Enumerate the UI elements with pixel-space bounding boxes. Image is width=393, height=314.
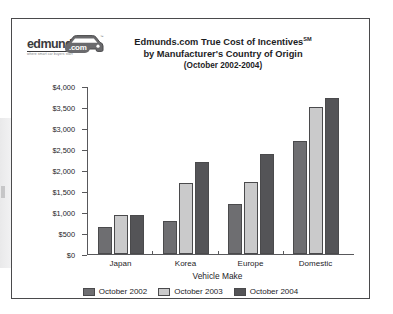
- legend-item[interactable]: October 2003: [158, 287, 222, 296]
- x-axis-category-label: Japan: [88, 259, 153, 268]
- logo-tagline: where smart car buyers start: [27, 52, 73, 56]
- y-axis-tick: $2,500: [82, 150, 87, 151]
- legend-label: October 2002: [99, 287, 147, 296]
- legend-item[interactable]: October 2002: [83, 287, 147, 296]
- edmunds-logo: edmunds ™ .com where smart car buyers st…: [27, 34, 105, 60]
- bar-group-korea: Korea: [153, 87, 218, 254]
- y-axis-label: $1,000: [52, 209, 75, 218]
- bar[interactable]: [195, 162, 209, 254]
- bar-series-container: JapanKoreaEuropeDomestic: [88, 87, 348, 254]
- y-axis-tick: $3,500: [82, 108, 87, 109]
- bar[interactable]: [163, 221, 177, 254]
- x-axis-category-label: Korea: [153, 259, 218, 268]
- y-axis-tick: $4,000: [82, 87, 87, 88]
- y-axis-tick: $1,000: [82, 213, 87, 214]
- bar[interactable]: [98, 227, 112, 254]
- y-axis-label: $2,500: [52, 146, 75, 155]
- bar[interactable]: [260, 154, 274, 254]
- y-axis-tick: $3,000: [82, 129, 87, 130]
- x-axis-title: Vehicle Make: [87, 271, 348, 281]
- y-axis-label: $1,500: [52, 188, 75, 197]
- bar-group-europe: Europe: [218, 87, 283, 254]
- service-mark: SM: [303, 36, 311, 42]
- y-axis-tick: $0: [82, 255, 87, 256]
- page-edge-mark: [1, 186, 5, 198]
- bar[interactable]: [228, 204, 242, 254]
- y-axis-label: $0: [67, 251, 75, 260]
- y-axis-label: $500: [59, 230, 75, 239]
- y-axis-label: $4,000: [52, 83, 75, 92]
- bar[interactable]: [130, 215, 144, 254]
- x-axis-group-separator: [152, 251, 153, 255]
- bar[interactable]: [244, 182, 258, 254]
- y-axis-tick: $500: [82, 234, 87, 235]
- y-axis-tick: $2,000: [82, 171, 87, 172]
- bar[interactable]: [114, 215, 128, 254]
- legend-swatch: [158, 288, 170, 296]
- bar[interactable]: [325, 98, 339, 254]
- y-axis-label: $3,000: [52, 125, 75, 134]
- y-axis-tick: $1,500: [82, 192, 87, 193]
- chart-legend: October 2002October 2003October 2004: [12, 287, 369, 296]
- chart-title: Edmunds.com True Cost of IncentivesSM by…: [98, 33, 348, 72]
- y-axis-label: $2,000: [52, 167, 75, 176]
- x-axis-category-label: Europe: [218, 259, 283, 268]
- bar[interactable]: [309, 107, 323, 254]
- chart-title-text: Edmunds.com True Cost of Incentives: [134, 37, 303, 47]
- plot-area: $0$500$1,000$1,500$2,000$2,500$3,000$3,5…: [87, 87, 348, 255]
- logo-dotcom-badge: .com: [65, 43, 90, 53]
- legend-label: October 2003: [174, 287, 222, 296]
- legend-label: October 2004: [250, 287, 298, 296]
- bar-group-japan: Japan: [88, 87, 153, 254]
- legend-item[interactable]: October 2004: [234, 287, 298, 296]
- chart-title-line-2: by Manufacturer's Country of Origin: [98, 48, 348, 60]
- y-axis-label: $3,500: [52, 104, 75, 113]
- bar[interactable]: [293, 141, 307, 254]
- bar-group-domestic: Domestic: [283, 87, 348, 254]
- legend-swatch: [234, 288, 246, 296]
- x-axis-group-separator: [218, 251, 219, 255]
- bar[interactable]: [179, 183, 193, 254]
- x-axis-category-label: Domestic: [283, 259, 348, 268]
- x-axis-group-separator: [283, 251, 284, 255]
- chart-subtitle: (October 2002-2004): [98, 60, 348, 72]
- legend-swatch: [83, 288, 95, 296]
- chart-title-line-1: Edmunds.com True Cost of IncentivesSM: [98, 33, 348, 48]
- chart-card: edmunds ™ .com where smart car buyers st…: [11, 18, 370, 299]
- x-axis-line: [87, 254, 354, 255]
